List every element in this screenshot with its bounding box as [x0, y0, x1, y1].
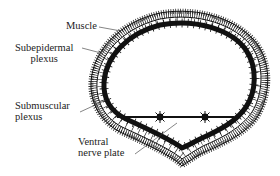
label-muscle-text: Muscle — [66, 20, 97, 31]
label-submuscular-plexus: Submuscular plexus — [15, 100, 70, 122]
label-ventral-nerve-plate: Ventral nerve plate — [78, 136, 124, 158]
label-ventral-line1: Ventral — [78, 136, 124, 147]
leader-subepidermal — [82, 48, 101, 53]
label-subepidermal-plexus: Subepidermal plexus — [15, 42, 73, 64]
label-submuscular-line1: Submuscular — [15, 100, 70, 111]
ganglion-left — [154, 111, 166, 123]
label-ventral-line2: nerve plate — [78, 147, 124, 158]
leader-muscle — [99, 27, 121, 31]
label-subepidermal-line1: Subepidermal — [15, 42, 73, 53]
label-submuscular-line2: plexus — [15, 111, 70, 122]
label-muscle: Muscle — [66, 20, 97, 31]
label-subepidermal-line2: plexus — [15, 53, 73, 64]
cross-section-diagram — [0, 0, 280, 176]
ganglion-right — [199, 111, 211, 123]
